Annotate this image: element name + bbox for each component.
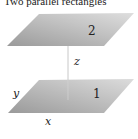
x-axis-label: x xyxy=(45,115,52,128)
figure-title: Two parallel rectangles xyxy=(4,0,106,7)
rectangle-2-label: 2 xyxy=(88,24,96,38)
z-axis-label: z xyxy=(73,55,80,68)
rectangle-1 xyxy=(8,79,134,113)
rectangle-1-label: 1 xyxy=(93,87,101,101)
rectangle-2 xyxy=(7,13,134,46)
y-axis-label: y xyxy=(12,87,20,100)
parallel-rectangles-diagram: Two parallel rectangles 2 z 1 y x xyxy=(0,0,138,139)
